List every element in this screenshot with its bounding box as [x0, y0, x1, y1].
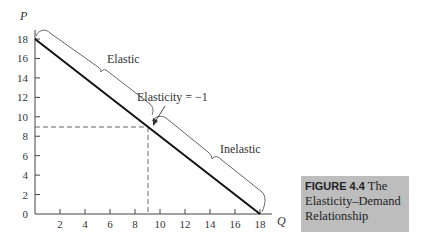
y-tick-label: 8 [23, 130, 29, 142]
x-ticks: 24681012141618 [57, 209, 266, 230]
x-tick-label: 16 [230, 218, 242, 230]
y-tick-label: 14 [17, 72, 29, 84]
x-tick-label: 18 [255, 218, 267, 230]
y-tick-label: 18 [17, 33, 29, 45]
y-tick-label: 4 [23, 169, 29, 181]
y-tick-label: 10 [17, 111, 29, 123]
y-axis-label: P [19, 9, 28, 23]
inelastic-label: Inelastic [220, 142, 261, 156]
x-tick-label: 12 [180, 218, 191, 230]
y-tick-label: 6 [23, 150, 29, 162]
y-tick-label: 0 [23, 208, 29, 220]
x-tick-label: 6 [107, 218, 113, 230]
unit-elasticity-arrow [155, 106, 165, 122]
unit-elasticity-label: Elasticity = −1 [137, 90, 208, 104]
inelastic-brace [152, 116, 265, 212]
x-axis-label: Q [277, 214, 286, 228]
figure-caption: FIGURE 4.4 The Elasticity–Demand Relatio… [301, 176, 409, 232]
elastic-label: Elastic [107, 52, 140, 66]
x-tick-label: 2 [57, 218, 63, 230]
y-ticks: 024681012141618 [17, 33, 40, 220]
elastic-brace [36, 30, 153, 115]
x-tick-label: 14 [205, 218, 217, 230]
x-tick-label: 8 [132, 218, 138, 230]
y-tick-label: 16 [17, 52, 29, 64]
demand-curve [35, 39, 260, 214]
x-tick-label: 10 [155, 218, 167, 230]
figure-number: FIGURE 4.4 [305, 180, 365, 192]
x-tick-label: 4 [82, 218, 88, 230]
y-tick-label: 2 [23, 189, 29, 201]
y-tick-label: 12 [17, 91, 28, 103]
